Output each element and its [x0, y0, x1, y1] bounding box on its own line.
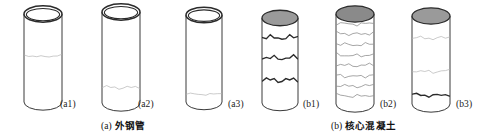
cylinder-body [336, 14, 374, 112]
group-caption-text-b: 核心混凝土 [345, 120, 396, 131]
specimen-label-a3: (a3) [228, 99, 244, 109]
cylinder-body [102, 12, 140, 111]
specimen-b3 [408, 0, 454, 112]
cylinder-body [186, 15, 222, 110]
specimen-b1 [258, 0, 302, 112]
specimen-label-b2: (b2) [380, 99, 396, 109]
cylinder-body [24, 14, 62, 110]
cylinder-body [262, 18, 298, 111]
specimen-a1 [20, 0, 66, 112]
tube-rim-inner [188, 10, 219, 21]
concrete-top-face [412, 8, 450, 24]
group-caption-a: (a)外钢管 [101, 118, 145, 132]
specimen-a3 [182, 0, 226, 112]
specimen-label-a2: (a2) [138, 99, 154, 109]
tube-rim-inner [104, 6, 137, 18]
concrete-top-face [262, 10, 298, 25]
specimen-label-b3: (b3) [456, 99, 472, 109]
tube-rim-inner [26, 8, 59, 20]
specimen-failure-figure: (a1)(a2)(a3)(b1)(b2)(b3) (a)外钢管(b)核心混凝土 [0, 0, 499, 138]
specimen-a2 [98, 0, 144, 112]
specimen-label-b1: (b1) [303, 99, 319, 109]
concrete-top-face [336, 6, 374, 22]
group-caption-index-b: (b) [331, 121, 342, 131]
specimen-b2 [332, 0, 378, 112]
cylinder-body [412, 16, 450, 112]
group-caption-text-a: 外钢管 [115, 120, 146, 131]
group-caption-b: (b)核心混凝土 [331, 118, 396, 132]
specimen-label-a1: (a1) [60, 99, 76, 109]
group-caption-index-a: (a) [101, 121, 112, 131]
